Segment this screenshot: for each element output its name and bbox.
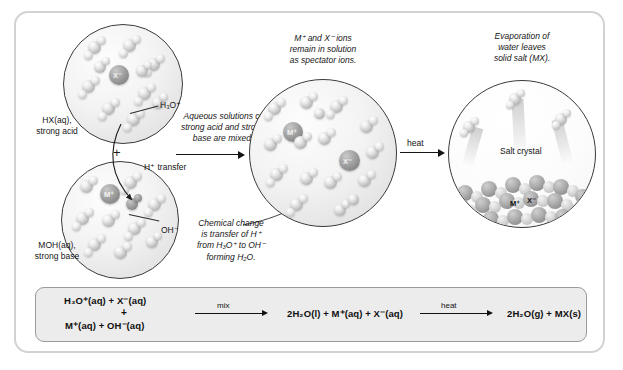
- base-caption: MOH(aq), strong base: [20, 240, 94, 262]
- evaporation-caption: Evaporation of water leaves solid salt (…: [468, 31, 576, 65]
- spectator-caption-line2: remain in solution: [290, 44, 357, 54]
- base-caption-line1: MOH(aq),: [38, 240, 75, 250]
- equation-mix-arrow-head: [262, 310, 268, 316]
- equation-reactants-line1: H₃O⁺(aq) + X⁻(aq): [64, 295, 146, 306]
- mix-caption-line1: Aqueous solutions of: [184, 111, 263, 121]
- salt-cation-label: M⁺: [510, 199, 520, 208]
- mixed-anion-label: X⁻: [343, 157, 352, 166]
- acid-caption-line2: strong acid: [36, 126, 78, 136]
- spectator-caption-line3: as spectator ions.: [290, 55, 357, 65]
- chemical-change-line3: from H₃O⁺ to OH⁻: [197, 240, 265, 250]
- equation-products: 2H₂O(g) + MX(s): [507, 308, 581, 319]
- heat-process-arrow-label: heat: [407, 138, 424, 148]
- equation-mix-arrow-line: [195, 313, 262, 314]
- mixed-cation-label: M⁺: [287, 128, 297, 137]
- hydronium-callout-label: H₃O⁺: [160, 100, 181, 111]
- chemical-change-line2: is transfer of H⁺: [201, 229, 260, 239]
- spectator-caption: M⁺ and X⁻ ions remain in solution as spe…: [267, 33, 379, 67]
- salt-crystal-label: Salt crystal: [500, 146, 542, 157]
- acid-anion-label: X⁻: [113, 71, 122, 80]
- chemistry-figure: X⁻ HX(aq), strong acid H₃O⁺: [0, 0, 623, 370]
- evaporation-caption-line3: solid salt (MX).: [494, 53, 550, 63]
- equation-heat-arrow-head: [487, 310, 493, 316]
- equation-reactants-plus: +: [121, 307, 127, 318]
- heat-process-arrow-line: [400, 152, 438, 153]
- chemical-change-caption: Chemical change is transfer of H⁺ from H…: [175, 218, 287, 263]
- mix-process-arrow-head: [238, 151, 245, 159]
- mix-caption-line3: base are mixed.: [193, 133, 253, 143]
- salt-anion-label: X⁻: [527, 196, 536, 205]
- base-cation-label: M⁺: [104, 190, 114, 199]
- evaporation-caption-line2: water leaves: [498, 42, 546, 52]
- evaporation-caption-line1: Evaporation of: [495, 31, 550, 41]
- heat-process-arrow-head: [438, 149, 445, 157]
- acid-caption-line1: HX(aq),: [42, 115, 71, 125]
- equation-intermediate: 2H₂O(l) + M⁺(aq) + X⁻(aq): [287, 308, 403, 319]
- acid-caption: HX(aq), strong acid: [24, 115, 90, 137]
- equation-heat-arrow-line: [420, 313, 487, 314]
- spectator-caption-line1: M⁺ and X⁻ ions: [294, 33, 352, 43]
- plus-sign-between-solutions: +: [113, 145, 121, 160]
- equation-heat-arrow-label: heat: [441, 301, 457, 310]
- h-transfer-label: H⁺ transfer: [144, 162, 186, 173]
- equation-mix-arrow-label: mix: [217, 301, 229, 310]
- mix-process-arrow-line: [176, 154, 238, 155]
- equation-reactants-line2: M⁺(aq) + OH⁻(aq): [65, 320, 144, 331]
- bubble-mixed-solution: M⁺ X⁻: [249, 79, 397, 227]
- chemical-change-line1: Chemical change: [198, 218, 264, 228]
- chemical-change-line4: forming H₂O.: [206, 252, 255, 262]
- base-caption-line2: strong base: [35, 251, 79, 261]
